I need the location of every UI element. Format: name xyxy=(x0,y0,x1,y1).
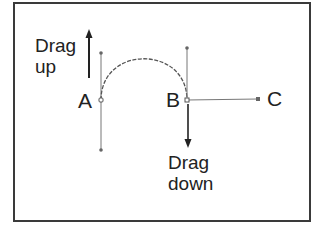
drag-down-label-line1: Drag xyxy=(168,153,209,172)
anchor-a-label: A xyxy=(78,90,92,111)
anchor-b-label: B xyxy=(166,89,180,110)
bezier-diagram xyxy=(0,0,328,226)
drag-down-arrow-icon xyxy=(185,104,192,148)
anchor-a-point xyxy=(99,98,103,102)
drag-up-label-line2: up xyxy=(35,57,56,76)
drag-up-arrow-icon xyxy=(86,29,93,78)
drag-up-label-line1: Drag xyxy=(35,36,76,55)
drag-down-label-line2: down xyxy=(168,174,213,193)
point-c-label: C xyxy=(267,88,282,109)
anchor-b-point xyxy=(185,98,189,102)
anchor-b-handles xyxy=(185,46,260,101)
